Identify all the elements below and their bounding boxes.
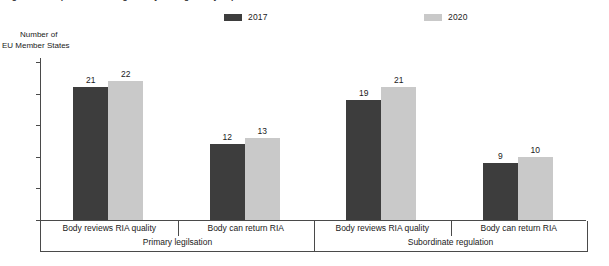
- bar-value-label: 21: [86, 75, 95, 85]
- category-label: Body reviews RIA quality: [41, 223, 178, 233]
- legend-swatch-2020: [424, 14, 442, 21]
- category-label: Body reviews RIA quality: [314, 223, 451, 233]
- category-label: Body can return RIA: [178, 223, 315, 233]
- bar-2020-1: 13: [245, 138, 280, 220]
- y-axis-tick: [36, 188, 41, 189]
- bar-value-label: 13: [258, 126, 267, 136]
- y-axis-tick: [36, 125, 41, 126]
- y-axis-caption: Number of EU Member States: [2, 30, 70, 51]
- y-axis-caption-line2: EU Member States: [2, 41, 70, 52]
- legend-swatch-2017: [224, 14, 242, 21]
- bar-2017-1: 12: [210, 144, 245, 220]
- bar-2020-0: 22: [108, 81, 143, 220]
- bar-2017-2: 19: [346, 100, 381, 220]
- group-label: Subordinate regulation: [314, 237, 587, 247]
- y-axis-tick: [36, 157, 41, 158]
- y-axis-caption-line1: Number of: [2, 30, 70, 41]
- chart-legend: 2017 2020: [0, 13, 609, 25]
- category-axis-band: Body reviews RIA qualityBody can return …: [40, 221, 588, 252]
- bar-2020-3: 10: [518, 157, 553, 220]
- bar-2020-2: 21: [381, 87, 416, 220]
- category-label: Body can return RIA: [451, 223, 588, 233]
- group-label: Primary legilsation: [41, 237, 314, 247]
- bar-2017-0: 21: [73, 87, 108, 220]
- legend-item-2017: 2017: [224, 13, 268, 22]
- plot-area: 0510152025212212131921910: [40, 62, 586, 220]
- bar-value-label: 19: [359, 88, 368, 98]
- y-axis-tick: [36, 94, 41, 95]
- bar-value-label: 9: [498, 151, 503, 161]
- category-separator: [178, 221, 179, 236]
- legend-label-2020: 2020: [448, 13, 468, 22]
- legend-item-2020: 2020: [424, 13, 468, 22]
- bar-value-label: 12: [223, 132, 232, 142]
- bar-value-label: 22: [121, 69, 130, 79]
- y-axis-line: [40, 58, 41, 220]
- bar-value-label: 21: [394, 75, 403, 85]
- legend-label-2017: 2017: [248, 13, 268, 22]
- bar-2017-3: 9: [483, 163, 518, 220]
- category-separator: [451, 221, 452, 236]
- figure-title: Figure 1. Independent oversight body for…: [4, 0, 390, 1]
- y-axis-tick: [36, 62, 41, 63]
- bar-value-label: 10: [531, 145, 540, 155]
